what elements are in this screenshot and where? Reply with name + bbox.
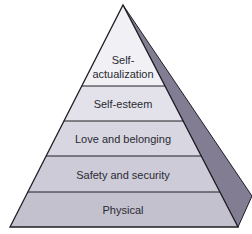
pyramid-diagram: Self- actualization Self-esteem Love and… — [0, 0, 252, 234]
label-love-and-belonging: Love and belonging — [75, 133, 171, 145]
label-self-actualization-line1: Self- — [112, 54, 135, 66]
label-safety-and-security: Safety and security — [76, 169, 170, 181]
label-physical: Physical — [103, 204, 144, 216]
label-self-actualization-line2: actualization — [92, 68, 153, 80]
label-self-esteem: Self-esteem — [94, 98, 153, 110]
